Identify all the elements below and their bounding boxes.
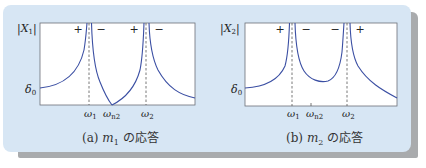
plot-a-delta0-label: δ0 — [25, 83, 36, 97]
plot-b-delta0-label: δ0 — [231, 83, 242, 97]
caption-b-var: m — [307, 131, 318, 145]
caption-a-sub: 1 — [114, 138, 119, 147]
plot-b: + − − + |X2| δ0 ω1 ωn2 ω2 — [220, 22, 397, 121]
caption-b-prefix: (b) — [286, 131, 303, 145]
plot-a: + − + − |X1| δ0 ω1 ωn2 ω2 — [17, 22, 195, 121]
plot-a-xtick-omegan2: ωn2 — [103, 108, 120, 121]
plot-a-sign-4: − — [154, 23, 163, 36]
caption-a-prefix: (a) — [82, 131, 99, 145]
plot-a-sign-2: − — [96, 23, 105, 36]
plot-b-sign-4: + — [355, 23, 364, 36]
plot-a-xtick-omega2: ω2 — [141, 108, 154, 121]
caption-a: (a) m1 の応答 — [82, 128, 159, 147]
caption-b: (b) m2 の応答 — [286, 128, 363, 147]
plot-b-xtick-omega2: ω2 — [342, 108, 355, 121]
plot-b-sign-1: + — [275, 23, 284, 36]
plot-a-xtick-omega1: ω1 — [84, 108, 97, 121]
plot-a-sign-3: + — [129, 23, 138, 36]
plot-a-frame — [40, 23, 195, 105]
caption-b-suffix: の応答 — [327, 131, 363, 145]
plot-a-sign-1: + — [73, 23, 82, 36]
plot-b-xtick-omegan2: ωn2 — [306, 108, 323, 121]
plot-b-ylabel: |X2| — [220, 22, 240, 36]
plot-b-xtick-omega1: ω1 — [287, 108, 300, 121]
plot-b-sign-2: − — [301, 23, 310, 36]
plot-b-frame — [245, 23, 397, 106]
caption-a-suffix: の応答 — [123, 131, 159, 145]
caption-b-sub: 2 — [318, 138, 323, 147]
plot-a-ylabel: |X1| — [17, 22, 37, 36]
plot-b-sign-3: − — [330, 23, 339, 36]
caption-a-var: m — [102, 131, 113, 145]
